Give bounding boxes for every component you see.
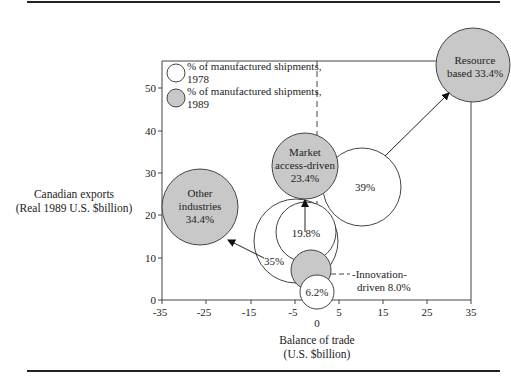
y-axis-title-line2: (Real 1989 U.S. $billion) — [16, 202, 133, 215]
innovation-label-1: -Innovation- — [352, 268, 407, 280]
x-tick-label: 5 — [336, 306, 342, 318]
x-tick-label: -15 — [242, 306, 257, 318]
label-39: 39% — [355, 181, 375, 193]
legend: % of manufactured shipments, 1978 % of m… — [167, 60, 322, 110]
x-tick-label: 0 — [314, 317, 320, 329]
other-label-3: 34.4% — [186, 213, 214, 225]
innovation-label-2: driven 8.0% — [357, 281, 411, 293]
y-axis-title-line1: Canadian exports — [34, 188, 115, 201]
market-label-3: 23.4% — [291, 172, 319, 184]
label-19.8: 19.8% — [292, 227, 320, 239]
legend-1978-label: % of manufactured shipments, — [187, 60, 322, 72]
y-tick-label: 20 — [145, 209, 157, 221]
legend-1989-label: % of manufactured shipments, — [187, 85, 322, 97]
y-tick-label: 30 — [145, 167, 157, 179]
x-tick-label: 35 — [466, 306, 478, 318]
resource-label-2: based 33.4% — [447, 67, 503, 79]
legend-1978-swatch — [167, 64, 185, 82]
x-tick-label: -35 — [153, 306, 168, 318]
x-tick-label: -5 — [288, 306, 298, 318]
other-label-1: Other — [187, 187, 212, 199]
resource-label-1: Resource — [455, 54, 496, 66]
y-tick-label: 10 — [145, 252, 157, 264]
x-tick-label: 25 — [422, 306, 434, 318]
label-6.2: 6.2% — [306, 286, 329, 298]
label-35: 35% — [264, 255, 284, 267]
other-label-2: industries — [179, 200, 222, 212]
y-tick-label: 50 — [145, 82, 157, 94]
y-tick-label: 0 — [151, 294, 157, 306]
market-label-1: Market — [289, 146, 321, 158]
arrow-resource — [385, 93, 449, 156]
x-tick-label: 15 — [378, 306, 390, 318]
x-axis-title-line2: (U.S. $billion) — [284, 348, 351, 361]
x-axis-title-line1: Balance of trade — [279, 334, 354, 346]
market-label-2: access-driven — [275, 159, 335, 171]
legend-1989-swatch — [167, 89, 185, 107]
y-axis — [158, 88, 162, 300]
y-tick-label: 40 — [145, 125, 157, 137]
bubble-chart: 0 10 20 30 40 50 -35 -25 -15 -5 0 5 15 2… — [0, 0, 511, 382]
legend-1989-year: 1989 — [187, 98, 210, 110]
x-tick-label: -25 — [197, 306, 212, 318]
legend-1978-year: 1978 — [187, 73, 210, 85]
